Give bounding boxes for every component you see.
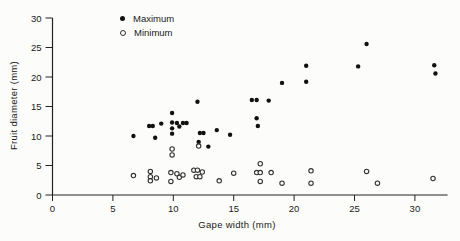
plot-canvas: 051015202530051015202530 xyxy=(0,0,460,241)
point-minimum xyxy=(258,162,262,166)
point-maximum xyxy=(256,124,260,128)
x-tick-label: 20 xyxy=(289,203,300,214)
point-minimum xyxy=(309,169,313,173)
legend-item-minimum: Minimum xyxy=(120,27,174,38)
point-minimum xyxy=(431,176,435,180)
point-minimum xyxy=(170,147,174,151)
point-maximum xyxy=(195,100,199,104)
point-maximum xyxy=(170,126,174,130)
y-tick-label: 25 xyxy=(31,42,42,53)
point-minimum xyxy=(169,179,173,183)
point-maximum xyxy=(177,124,181,128)
legend: Maximum Minimum xyxy=(120,13,174,38)
point-minimum xyxy=(280,181,284,185)
point-maximum xyxy=(206,144,210,148)
point-maximum xyxy=(170,111,174,115)
x-tick-label: 5 xyxy=(110,203,115,214)
point-minimum xyxy=(258,179,262,183)
x-tick-label: 15 xyxy=(228,203,239,214)
y-tick-label: 20 xyxy=(31,72,42,83)
legend-item-maximum: Maximum xyxy=(120,13,174,24)
scatter-chart: 051015202530051015202530 Fruit diameter … xyxy=(0,0,460,241)
point-maximum xyxy=(250,98,254,102)
point-maximum xyxy=(304,80,308,84)
point-minimum xyxy=(258,170,262,174)
point-maximum xyxy=(215,128,219,132)
point-maximum xyxy=(254,98,258,102)
x-tick-label: 25 xyxy=(349,203,360,214)
point-minimum xyxy=(169,170,173,174)
point-minimum xyxy=(232,171,236,175)
point-minimum xyxy=(309,181,313,185)
point-minimum xyxy=(148,169,152,173)
point-minimum xyxy=(148,179,152,183)
y-tick-label: 30 xyxy=(31,13,42,24)
point-minimum xyxy=(170,153,174,157)
point-maximum xyxy=(304,64,308,68)
point-maximum xyxy=(131,134,135,138)
point-maximum xyxy=(151,124,155,128)
point-maximum xyxy=(159,121,163,125)
y-tick-label: 0 xyxy=(36,190,41,201)
x-axis-title: Gape width (mm) xyxy=(137,219,337,230)
point-minimum xyxy=(195,168,199,172)
filled-circle-icon xyxy=(120,16,125,21)
y-axis-title: Fruit diameter (mm) xyxy=(8,31,21,181)
point-minimum xyxy=(196,144,200,148)
x-tick-label: 30 xyxy=(410,203,421,214)
point-minimum xyxy=(375,181,379,185)
point-minimum xyxy=(217,179,221,183)
point-maximum xyxy=(432,63,436,67)
point-minimum xyxy=(198,175,202,179)
point-maximum xyxy=(170,120,174,124)
point-maximum xyxy=(184,121,188,125)
x-tick-label: 0 xyxy=(50,203,55,214)
point-maximum xyxy=(228,133,232,137)
point-maximum xyxy=(254,116,258,120)
point-minimum xyxy=(364,169,368,173)
open-circle-icon xyxy=(120,30,126,36)
point-maximum xyxy=(280,81,284,85)
legend-label-maximum: Maximum xyxy=(133,13,174,24)
axes xyxy=(53,18,448,195)
point-maximum xyxy=(364,42,368,46)
point-maximum xyxy=(170,131,174,135)
point-minimum xyxy=(200,170,204,174)
y-tick-label: 5 xyxy=(36,160,41,171)
point-maximum xyxy=(433,71,437,75)
legend-label-minimum: Minimum xyxy=(134,27,173,38)
point-minimum xyxy=(154,176,158,180)
point-maximum xyxy=(267,98,271,102)
y-tick-label: 10 xyxy=(31,131,42,142)
x-tick-label: 10 xyxy=(168,203,179,214)
point-maximum xyxy=(356,64,360,68)
point-minimum xyxy=(181,173,185,177)
point-maximum xyxy=(153,136,157,140)
point-minimum xyxy=(131,173,135,177)
point-minimum xyxy=(269,170,273,174)
y-tick-label: 15 xyxy=(31,101,42,112)
point-maximum xyxy=(201,131,205,135)
